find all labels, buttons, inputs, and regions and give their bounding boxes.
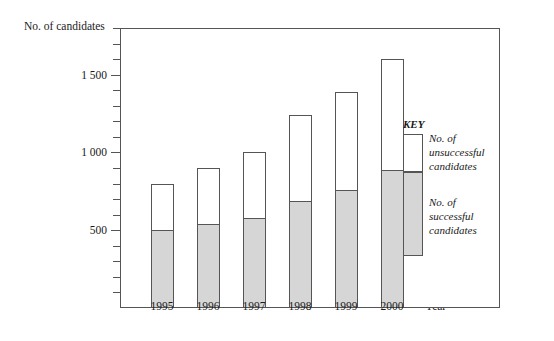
y-axis-tick: [113, 28, 120, 29]
y-axis-tick: [111, 75, 120, 76]
bar-1997: [243, 152, 266, 308]
bar-segment-unsuccessful: [243, 152, 266, 218]
y-axis-tick: [113, 199, 120, 200]
y-axis-tick: [113, 90, 120, 91]
bar-2000: [381, 59, 404, 308]
y-axis-tick: [113, 292, 120, 293]
bar-segment-unsuccessful: [289, 115, 312, 202]
y-axis-tick: [113, 215, 120, 216]
y-axis-tick: [113, 59, 120, 60]
y-axis-tick: [113, 168, 120, 169]
bar-segment-unsuccessful: [381, 59, 404, 170]
x-axis-tick-label: 1996: [185, 300, 231, 312]
bar-1999: [335, 92, 358, 308]
bar-segment-successful: [335, 190, 358, 308]
chart-canvas: No. of candidates Year 5001 0001 500 199…: [0, 0, 554, 341]
y-axis-tick-label: 1 000: [81, 146, 107, 158]
x-axis-tick-label: 1995: [139, 300, 185, 312]
legend-swatch: [403, 134, 423, 256]
y-axis-tick: [111, 152, 120, 153]
x-axis-tick-label: 2000: [369, 300, 415, 312]
legend-entry-unsuccessful: No. of unsuccessful candidates: [429, 132, 503, 173]
y-axis-tick: [113, 121, 120, 122]
bar-segment-successful: [151, 230, 174, 308]
legend-swatch-successful: [403, 172, 423, 256]
y-axis-tick: [113, 44, 120, 45]
y-axis-tick: [113, 246, 120, 247]
legend: KEY No. of unsuccessful candidates No. o…: [401, 118, 497, 132]
bar-1996: [197, 168, 220, 308]
x-axis-tick-label: 1999: [323, 300, 369, 312]
bar-1995: [151, 184, 174, 308]
legend-entry-successful-line1: No. of successful: [429, 196, 474, 222]
y-axis-title: No. of candidates: [24, 20, 105, 32]
bar-segment-unsuccessful: [151, 184, 174, 232]
y-axis-tick: [111, 230, 120, 231]
bar-segment-unsuccessful: [335, 92, 358, 191]
bar-segment-successful: [197, 224, 220, 308]
bar-segment-successful: [289, 201, 312, 308]
y-axis-tick: [113, 137, 120, 138]
bar-1998: [289, 115, 312, 308]
x-axis-tick-label: 1998: [277, 300, 323, 312]
y-axis-tick: [113, 261, 120, 262]
bar-segment-successful: [381, 170, 404, 308]
bar-segment-unsuccessful: [197, 168, 220, 225]
y-axis-tick-label: 500: [90, 224, 107, 236]
y-axis-tick: [113, 184, 120, 185]
y-axis-tick: [113, 277, 120, 278]
y-axis-tick: [113, 106, 120, 107]
y-axis-tick-label: 1 500: [81, 69, 107, 81]
legend-entry-unsuccessful-line2: candidates: [429, 160, 477, 172]
x-axis-tick-label: 1997: [231, 300, 277, 312]
legend-swatch-unsuccessful: [403, 134, 423, 172]
legend-entry-successful-line2: candidates: [429, 224, 477, 236]
legend-title: KEY: [403, 118, 497, 130]
bar-segment-successful: [243, 218, 266, 308]
legend-entry-unsuccessful-line1: No. of unsuccessful: [429, 132, 485, 158]
legend-entry-successful: No. of successful candidates: [429, 196, 503, 237]
